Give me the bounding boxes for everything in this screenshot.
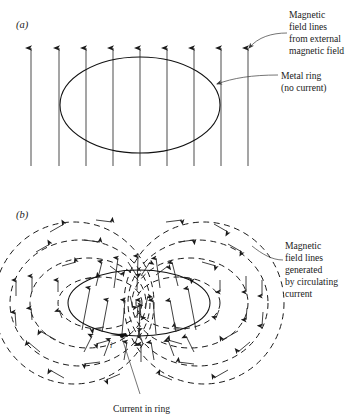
generated-field-label-line-1: Magnetic — [285, 240, 321, 251]
field-loop — [132, 258, 248, 348]
interior-arrow — [170, 300, 176, 332]
field-loop — [128, 240, 268, 366]
interior-arrow — [84, 336, 92, 352]
panel-a-group: (a) Magnetic field lines — [16, 9, 344, 166]
panel-a-label: (a) — [16, 19, 29, 31]
interior-arrow — [168, 340, 174, 356]
field-loop — [58, 277, 142, 329]
current-caption-leader — [122, 338, 140, 394]
interior-arrow — [153, 300, 156, 334]
field-loop — [0, 222, 154, 384]
interior-arrow — [96, 262, 102, 286]
interior-arrow — [151, 342, 154, 360]
current-symbol-label: i — [110, 341, 112, 350]
interior-arrow — [102, 300, 108, 332]
right-field-loops — [124, 222, 284, 384]
external-field-label-line-2: field lines — [289, 21, 327, 32]
external-field-leader — [249, 33, 287, 48]
panel-b-group: (b) — [0, 209, 338, 414]
external-field-label-line-1: Magnetic — [289, 9, 325, 20]
figure-container: (a) Magnetic field lines — [0, 0, 362, 419]
panel-b-label: (b) — [16, 209, 29, 221]
generated-field-label-line-3: generated — [285, 264, 322, 275]
interior-arrow — [122, 300, 125, 334]
current-caption: Current in ring — [113, 403, 170, 414]
external-field-label-line-4: magnetic field — [289, 45, 344, 56]
right-loop-arrowheads — [137, 220, 263, 380]
metal-ring-label-line-1: Metal ring — [281, 70, 321, 81]
generated-field-label-line-5: current — [285, 288, 312, 299]
external-field-lines — [31, 48, 248, 166]
figure-diagram: (a) Magnetic field lines — [0, 0, 362, 419]
field-loop — [30, 258, 146, 348]
left-loop-arrowheads — [15, 220, 141, 380]
field-loop — [124, 222, 284, 384]
external-field-label-line-3: from external — [289, 33, 341, 44]
interior-arrow — [114, 258, 118, 288]
left-field-loops — [0, 222, 154, 384]
interior-field-arrows — [82, 256, 196, 362]
metal-ring-leader — [217, 75, 278, 84]
current-point — [120, 334, 124, 338]
external-field-label: Magnetic field lines from external magne… — [289, 9, 344, 56]
interior-arrow — [186, 336, 194, 352]
metal-ring-label: Metal ring (no current) — [281, 70, 327, 94]
generated-field-label: Magnetic field lines generated by circul… — [285, 240, 338, 299]
interior-arrow — [137, 256, 138, 290]
generated-field-label-line-2: field lines — [285, 252, 323, 263]
metal-ring-label-line-2: (no current) — [281, 82, 327, 94]
generated-field-label-line-4: by circulating — [285, 276, 338, 287]
